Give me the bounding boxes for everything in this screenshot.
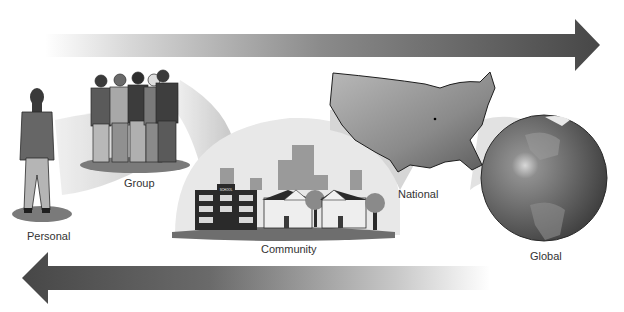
label-global: Global — [530, 250, 562, 262]
svg-text:SCHOOL: SCHOOL — [220, 188, 233, 192]
label-group: Group — [124, 177, 155, 189]
diagram-canvas: SCHOOL — [0, 0, 624, 312]
school-building: SCHOOL — [195, 184, 257, 230]
group-figures — [80, 70, 190, 173]
label-national: National — [398, 188, 438, 200]
backward-arrow — [22, 252, 490, 304]
forward-arrow — [45, 19, 600, 71]
globe — [481, 115, 607, 241]
label-personal: Personal — [27, 230, 70, 242]
label-community: Community — [261, 243, 317, 255]
